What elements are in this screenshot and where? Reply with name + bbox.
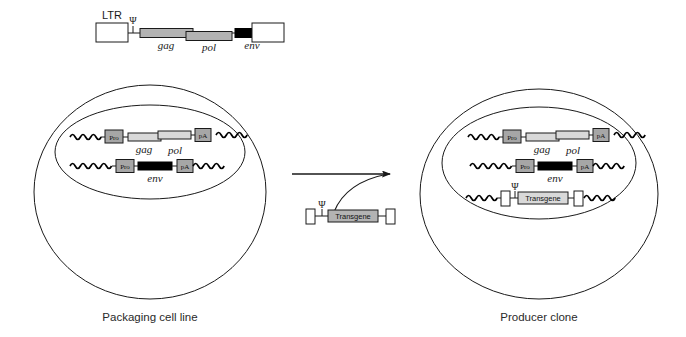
promoter-label: Pro bbox=[109, 134, 119, 142]
provirus-construct: LTR Ψ gag pol env bbox=[96, 9, 284, 53]
gag-label: gag bbox=[158, 39, 175, 51]
env-label: env bbox=[147, 172, 162, 184]
ltr-box-right bbox=[574, 191, 583, 206]
psi-symbol: Ψ bbox=[511, 181, 519, 192]
psi-symbol: Ψ bbox=[129, 15, 137, 26]
pol-bar bbox=[158, 131, 191, 139]
pol-label: pol bbox=[167, 144, 182, 156]
gag-bar bbox=[128, 133, 161, 141]
pol-label: pol bbox=[565, 144, 580, 156]
polya-label: pA bbox=[199, 132, 208, 140]
transgene-vector: Ψ Transgene bbox=[306, 199, 395, 224]
gag-bar bbox=[526, 133, 559, 141]
transgene-label: Transgene bbox=[525, 194, 561, 203]
ltr-label: LTR bbox=[102, 9, 122, 21]
ltr-box-left bbox=[96, 23, 128, 42]
promoter-label: Pro bbox=[520, 163, 530, 171]
producer-cell: Pro gag pol pA Pro env pA bbox=[420, 89, 658, 323]
env-bar bbox=[538, 162, 572, 170]
gag-bar bbox=[140, 29, 193, 38]
ltr-box-right bbox=[252, 23, 284, 42]
ltr-box-left bbox=[501, 191, 510, 206]
polya-label: pA bbox=[581, 163, 590, 171]
producer-cell-label: Producer clone bbox=[500, 311, 577, 323]
polya-label: pA bbox=[181, 163, 190, 171]
packaging-cell-label: Packaging cell line bbox=[102, 311, 197, 323]
gag-label: gag bbox=[534, 143, 551, 155]
promoter-label: Pro bbox=[120, 163, 130, 171]
arrow-curve bbox=[334, 174, 388, 212]
gag-label: gag bbox=[136, 143, 153, 155]
promoter-label: Pro bbox=[507, 134, 517, 142]
pol-bar bbox=[556, 131, 589, 139]
retroviral-vector-diagram: LTR Ψ gag pol env Pro gag pol bbox=[0, 0, 686, 337]
env-bar bbox=[138, 162, 172, 170]
packaging-cell: Pro gag pol pA Pro env pA Packaging cell bbox=[34, 85, 266, 323]
transfer-arrow bbox=[292, 174, 390, 212]
ltr-box-left bbox=[306, 209, 315, 224]
polya-label: pA bbox=[597, 132, 606, 140]
pol-bar bbox=[186, 32, 232, 41]
figure-canvas: LTR Ψ gag pol env Pro gag pol bbox=[0, 0, 686, 337]
transgene-label: Transgene bbox=[335, 212, 371, 221]
ltr-box-right bbox=[386, 209, 395, 224]
psi-symbol: Ψ bbox=[318, 199, 326, 210]
env-label: env bbox=[547, 172, 562, 184]
pol-label: pol bbox=[201, 41, 216, 53]
